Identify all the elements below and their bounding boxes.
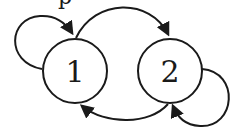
cropped-caption-text: p xyxy=(58,0,72,9)
node-2-label: 2 xyxy=(160,54,179,89)
edge-2-to-1-arrow xyxy=(82,104,168,120)
node-2: 2 xyxy=(138,39,202,103)
node-1: 1 xyxy=(43,39,107,103)
node-1-label: 1 xyxy=(65,54,84,89)
state-diagram: p 1 2 xyxy=(0,0,237,134)
edge-1-to-2-arrow xyxy=(76,7,168,38)
